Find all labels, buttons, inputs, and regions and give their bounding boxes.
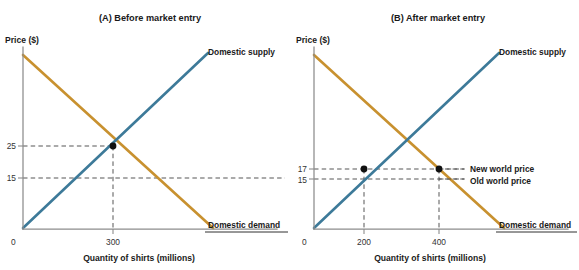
economics-figure: (A) Before market entry Price ($) 25 — [0, 0, 579, 270]
panel-b-ytick-label-17: 17 — [298, 164, 308, 174]
panel-b-x-axis-label: Quantity of shirts (millions) — [374, 253, 486, 263]
panel-a-x-axis-label: Quantity of shirts (millions) — [83, 253, 195, 263]
panel-b-old-world-price-label: Old world price — [470, 176, 531, 186]
panel-a-y-axis-label: Price ($) — [5, 35, 39, 45]
panel-after-market-entry: (B) After market entry Price ($) 17 — [290, 0, 579, 270]
panel-before-market-entry: (A) Before market entry Price ($) 25 — [0, 0, 290, 270]
panel-b-demand-label: Domestic demand — [499, 220, 571, 230]
panel-a-demand-label: Domestic demand — [208, 220, 280, 230]
panel-b-origin-label: 0 — [302, 237, 307, 247]
panel-b-svg: (B) After market entry Price ($) 17 — [290, 0, 579, 270]
panel-b-xtick-label-400: 400 — [432, 237, 446, 247]
panel-b-title: (B) After market entry — [391, 13, 486, 23]
panel-a-xtick-label-300: 300 — [106, 237, 120, 247]
panel-a-equilibrium-point — [110, 143, 117, 150]
panel-b-supply-label: Domestic supply — [499, 47, 566, 57]
panel-b-y-axis-label: Price ($) — [296, 35, 330, 45]
panel-a-svg: (A) Before market entry Price ($) 25 — [0, 0, 290, 270]
panel-b-demand-point — [436, 166, 443, 173]
panel-a-ytick-label-15: 15 — [7, 173, 17, 183]
panel-a-supply-label: Domestic supply — [208, 47, 275, 57]
panel-b-xtick-label-200: 200 — [357, 237, 371, 247]
panel-a-origin-label: 0 — [11, 237, 16, 247]
panel-b-supply-point — [361, 166, 368, 173]
panel-b-ytick-label-15: 15 — [298, 175, 308, 185]
panel-a-title: (A) Before market entry — [99, 13, 202, 23]
panel-a-ytick-label-25: 25 — [7, 141, 17, 151]
panel-b-new-world-price-label: New world price — [470, 164, 535, 174]
